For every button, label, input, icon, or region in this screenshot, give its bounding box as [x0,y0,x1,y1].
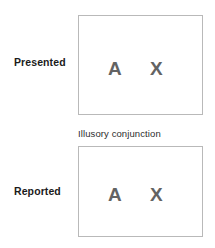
stimulus-box-presented: A X [78,15,203,115]
illusory-conjunction-figure: Presented A X Illusory conjunction Repor… [0,0,215,248]
row-label-presented: Presented [14,56,66,68]
reported-letter-a: A [108,185,122,204]
presented-letter-a: A [108,59,122,78]
illusory-conjunction-caption: Illusory conjunction [78,128,161,139]
stimulus-box-reported: A X [78,146,203,237]
presented-letter-x: X [150,59,163,78]
row-label-reported: Reported [14,185,61,197]
reported-letter-x: X [150,185,163,204]
